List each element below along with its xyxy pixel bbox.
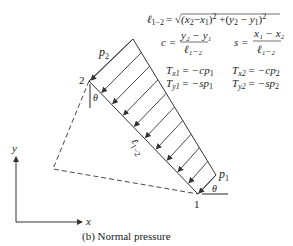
normal-pressure-diagram: 2 1 θ θ p2 p1 ℓ1−2 y x ℓ1−2= √(x2−x1)2 +…: [0, 0, 293, 246]
s-formula-lhs: s =: [234, 36, 248, 48]
c-formula-lhs: c =: [161, 36, 176, 48]
node-1-label: 1: [194, 198, 200, 210]
svg-text:ℓ1−2: ℓ1−2: [127, 137, 147, 158]
tx1-formula: Tx1= −cp1: [166, 64, 214, 78]
theta-label-node2: θ: [93, 92, 98, 103]
element-length-label: ℓ1−2: [127, 137, 147, 158]
c-formula-numerator: y₂ − y₁: [180, 29, 212, 41]
formulas: ℓ1−2= √(x2−x1)2 +(y2 − y1)2 c = y₂ − y₁ …: [147, 12, 285, 91]
tx2-formula: Tx2= −cp2: [232, 64, 280, 78]
c-formula-denominator: ℓ₁₋₂: [184, 43, 202, 55]
element-dashed-outline: [53, 81, 198, 194]
element-edge-1-2: [89, 81, 198, 194]
ty1-formula: Ty1= −sp1: [166, 77, 213, 91]
pressure-distribution-outline: [89, 39, 216, 194]
p1-label: p1: [218, 167, 229, 183]
x-axis-label: x: [85, 215, 91, 227]
node-2-label: 2: [79, 74, 85, 86]
y-axis-label: y: [11, 142, 17, 154]
p2-label: p2: [98, 45, 109, 61]
s-formula-denominator: ℓ₁₋₂: [257, 43, 275, 55]
s-formula-numerator: x₁ − x₂: [253, 27, 285, 39]
ty2-formula: Ty2= −sp2: [232, 77, 279, 91]
theta-label-node1: θ: [212, 183, 217, 194]
coordinate-axes: y x: [11, 142, 91, 227]
figure-caption: (b) Normal pressure: [82, 230, 171, 243]
pressure-arrows: [91, 39, 216, 193]
